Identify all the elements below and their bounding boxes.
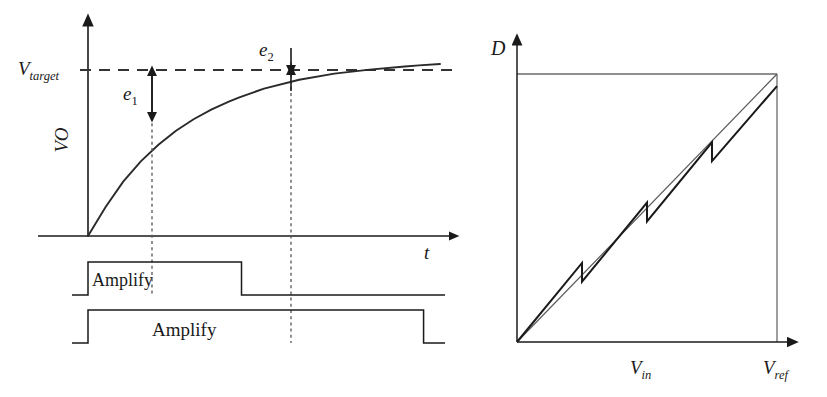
v-target-label: Vtarget bbox=[18, 58, 60, 83]
e1-label: e1 bbox=[123, 83, 138, 108]
technical-figure-svg: Vtarget VO e1 e2 t Amplify Amplify bbox=[0, 0, 827, 397]
segmented-transfer-curve bbox=[517, 86, 777, 342]
figure-root: Vtarget VO e1 e2 t Amplify Amplify bbox=[0, 0, 827, 397]
vo-axis-label: VO bbox=[51, 127, 72, 152]
v-in-label: Vin bbox=[630, 357, 651, 382]
amplify-label-1: Amplify bbox=[92, 270, 153, 290]
right-panel-group: D Vin Vref bbox=[490, 37, 790, 382]
d-axis-label: D bbox=[490, 37, 506, 59]
t-axis-label: t bbox=[424, 242, 430, 263]
left-panel-group: Vtarget VO e1 e2 t Amplify Amplify bbox=[18, 25, 455, 343]
settling-curve bbox=[88, 64, 440, 236]
e2-label: e2 bbox=[259, 39, 274, 64]
amplify-label-2: Amplify bbox=[152, 319, 217, 340]
v-ref-label: Vref bbox=[763, 357, 790, 382]
amplify-pulse-2-waveform bbox=[72, 310, 445, 343]
